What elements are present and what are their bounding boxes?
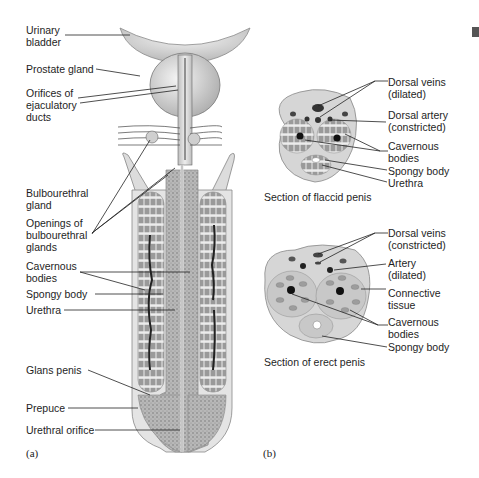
- erect-cross-section: [265, 245, 370, 343]
- caption-erect: Section of erect penis: [264, 356, 365, 368]
- label-cavernous-bodies: Cavernous bodies: [26, 260, 77, 284]
- flaccid-cross-section: [279, 90, 356, 182]
- label-connective-tissue: Connective tissue: [388, 287, 441, 311]
- label-prepuce: Prepuce: [26, 402, 65, 414]
- label-glans-penis: Glans penis: [26, 364, 81, 376]
- label-urinary-bladder: Urinary bladder: [26, 24, 61, 48]
- label-bulbourethral-gland: Bulbourethral gland: [26, 187, 88, 211]
- label-dorsal-veins-constricted: Dorsal veins (constricted): [388, 227, 446, 251]
- label-orifices-ejaculatory-ducts: Orifices of ejaculatory ducts: [26, 87, 77, 123]
- label-dorsal-artery-constricted: Dorsal artery (constricted): [388, 109, 448, 133]
- label-artery-dilated: Artery (dilated): [388, 257, 426, 281]
- corner-marker: [472, 27, 479, 37]
- label-urethra-flaccid: Urethra: [388, 177, 423, 189]
- label-urethra: Urethra: [26, 304, 61, 316]
- panel-a-letter: (a): [26, 447, 38, 459]
- label-spongy-body: Spongy body: [26, 288, 87, 300]
- label-openings-bulbourethral-glands: Openings of bulbourethral glands: [26, 217, 87, 253]
- label-cavernous-bodies-erect: Cavernous bodies: [388, 316, 439, 340]
- label-cavernous-bodies-flaccid: Cavernous bodies: [388, 140, 439, 164]
- label-spongy-body-flaccid: Spongy body: [388, 165, 449, 177]
- label-dorsal-veins-dilated: Dorsal veins (dilated): [388, 76, 446, 100]
- label-urethral-orifice: Urethral orifice: [26, 424, 94, 436]
- label-prostate-gland: Prostate gland: [26, 63, 94, 75]
- caption-flaccid: Section of flaccid penis: [264, 191, 371, 203]
- panel-b-letter: (b): [263, 447, 276, 459]
- longitudinal-section: [118, 28, 250, 452]
- label-spongy-body-erect: Spongy body: [388, 341, 449, 353]
